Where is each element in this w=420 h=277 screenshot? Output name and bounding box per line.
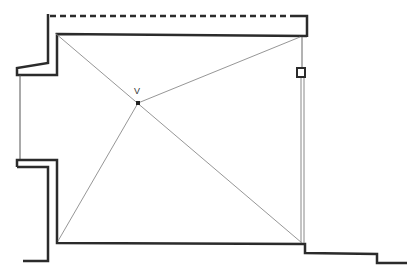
diagonal-topright-to-V [138, 37, 300, 103]
diagonal-V-to-bottomleft [58, 103, 138, 241]
top-right-corner-wall [296, 16, 307, 37]
lower-left-return-wall [17, 167, 48, 261]
right-wall-square-marker [297, 68, 305, 77]
vanishing-point-label: V [134, 86, 140, 96]
diagonal-topleft-to-bottomright [55, 33, 302, 243]
floor-plan-diagram [0, 0, 420, 277]
vanishing-point-marker [136, 101, 140, 105]
upper-left-wall [17, 14, 307, 75]
